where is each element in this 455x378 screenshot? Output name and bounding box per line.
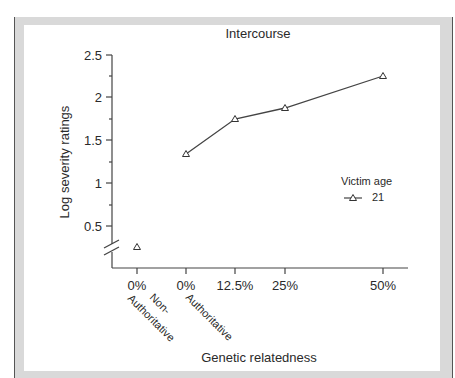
y-tick-label: 1.5: [84, 133, 102, 148]
data-point-triangle-icon: [134, 244, 141, 250]
x-tick-label: 50%: [370, 278, 396, 293]
chart-svg: Intercourse Log severity ratings 2.5 2 1…: [0, 0, 455, 378]
x-axis: [112, 268, 408, 274]
data-point-triangle-icon: [380, 73, 387, 79]
x-tick-label: 25%: [272, 278, 298, 293]
x-axis-label: Genetic relatedness: [201, 350, 317, 365]
series-markers: [134, 73, 387, 250]
y-tick-label: 2.5: [84, 48, 102, 63]
legend-title: Victim age: [341, 175, 392, 187]
y-tick-label: 0.5: [84, 219, 102, 234]
chart-title: Intercourse: [225, 26, 290, 41]
x-tick-label: 12.5%: [217, 278, 254, 293]
data-point-triangle-icon: [183, 151, 190, 157]
x-tick-label: 0%: [128, 278, 147, 293]
y-tick-label: 1: [95, 176, 102, 191]
y-axis: [104, 55, 119, 268]
legend-entry-21: 21: [372, 191, 384, 203]
y-tick-label: 2: [95, 90, 102, 105]
legend: Victim age 21: [341, 175, 392, 203]
x-sublabel-authoritative: Authoritative: [184, 291, 236, 343]
y-axis-label: Log severity ratings: [57, 105, 72, 218]
series-line-21: [186, 76, 383, 154]
